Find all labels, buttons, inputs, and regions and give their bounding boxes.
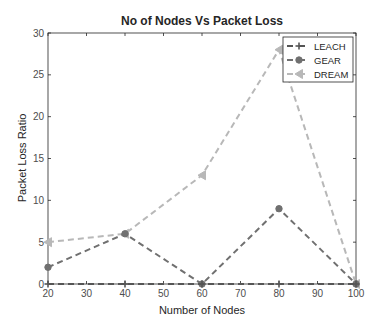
y-tick-label: 25 [33, 69, 45, 80]
y-tick-label: 10 [33, 195, 45, 206]
x-tick-label: 100 [348, 288, 365, 299]
legend-label: DREAM [314, 69, 348, 80]
legend-label: GEAR [314, 55, 341, 66]
x-tick-label: 50 [158, 288, 170, 299]
y-tick-label: 30 [33, 28, 45, 39]
x-tick-label: 70 [235, 288, 247, 299]
x-tick-label: 90 [312, 288, 324, 299]
x-tick-label: 30 [81, 288, 93, 299]
x-tick-label: 80 [273, 288, 285, 299]
y-axis-label: Packet Loss Ratio [16, 114, 28, 203]
x-tick-label: 40 [119, 288, 131, 299]
x-axis-label: Number of Nodes [159, 304, 246, 316]
x-tick-label: 20 [42, 288, 54, 299]
legend-label: LEACH [314, 41, 346, 52]
line-chart: No of Nodes Vs Packet Loss 051015202530 … [0, 0, 381, 328]
x-tick-label: 60 [196, 288, 208, 299]
legend: LEACHGEARDREAM [283, 37, 353, 82]
chart-title: No of Nodes Vs Packet Loss [121, 14, 283, 28]
y-tick-label: 15 [33, 153, 45, 164]
y-tick-label: 20 [33, 111, 45, 122]
